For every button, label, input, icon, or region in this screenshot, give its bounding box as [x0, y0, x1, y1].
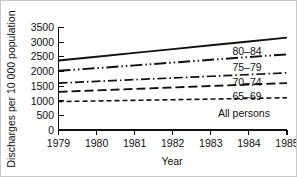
line-chart: Discharges per 10 000 population 3500 30…: [1, 1, 297, 177]
series-label-70-74: 70–74: [232, 76, 261, 88]
y-tick-label: 2500: [31, 50, 55, 62]
y-axis-title: Discharges per 10 000 population: [5, 10, 17, 167]
y-tick-label: 1500: [31, 80, 55, 92]
y-tick-labels: 3500 3000 2500 2000 1500 1000 500 0: [31, 21, 55, 136]
y-tick-label: 3500: [31, 21, 55, 33]
y-tick-label: 500: [36, 109, 54, 121]
series-label-80-84: 80–84: [232, 45, 261, 57]
x-tick-labels: 1979 1980 1981 1982 1983 1984 1985: [47, 137, 297, 149]
y-tick-marks: [59, 27, 64, 130]
chart-figure: Discharges per 10 000 population 3500 30…: [0, 0, 297, 177]
y-tick-label: 3000: [31, 36, 55, 48]
y-tick-label: 1000: [31, 95, 55, 107]
x-tick-marks: [59, 130, 288, 135]
series-labels: 80–84 75–79 70–74 65–69 All persons: [218, 45, 270, 119]
series-label-all-persons: All persons: [218, 107, 270, 119]
x-tick-label: 1985: [275, 137, 297, 149]
x-tick-label: 1980: [85, 137, 109, 149]
x-tick-label: 1983: [199, 137, 223, 149]
y-tick-label: 0: [48, 124, 54, 136]
x-tick-label: 1982: [161, 137, 185, 149]
x-tick-label: 1979: [47, 137, 71, 149]
y-tick-label: 2000: [31, 65, 55, 77]
x-tick-label: 1984: [237, 137, 261, 149]
series-label-65-69: 65–69: [232, 90, 261, 102]
series-label-75-79: 75–79: [232, 61, 261, 73]
y-axis-title-group: Discharges per 10 000 population: [5, 10, 17, 167]
x-tick-label: 1981: [123, 137, 147, 149]
x-axis-title: Year: [161, 155, 183, 167]
